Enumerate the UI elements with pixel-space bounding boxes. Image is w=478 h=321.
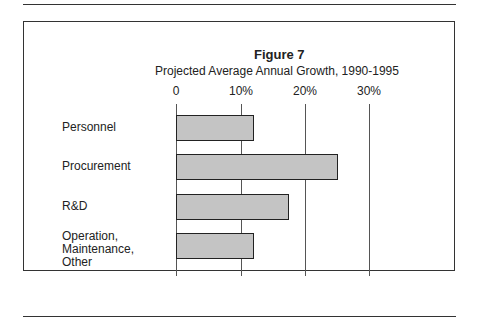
figure-label-text: Figure 7: [254, 47, 305, 62]
tick-20: 20%: [293, 84, 317, 98]
gridline-30: [369, 104, 370, 276]
category-personnel: Personnel: [62, 121, 116, 134]
gridline-20: [305, 104, 306, 276]
tick-10: 10%: [229, 84, 253, 98]
category-procurement: Procurement: [62, 160, 131, 173]
chart-subtitle: Projected Average Annual Growth, 1990-19…: [155, 64, 399, 78]
category-om-line3: Other: [62, 256, 92, 269]
bar-rd: [176, 194, 289, 220]
tick-0: 0: [173, 84, 180, 98]
bottom-rule: [23, 316, 456, 317]
bar-procurement: [176, 154, 338, 180]
category-rd: R&D: [62, 200, 87, 213]
tick-30: 30%: [357, 84, 381, 98]
bar-operation-maintenance-other: [176, 233, 254, 259]
bar-personnel: [176, 115, 254, 141]
top-rule: [23, 4, 456, 5]
